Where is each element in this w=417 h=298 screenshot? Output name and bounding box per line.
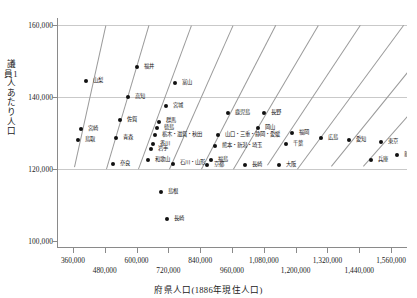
x-tick-mark [105,248,106,253]
data-point-label: 新潟 [404,152,407,158]
data-point [347,138,351,142]
data-point [379,140,383,144]
data-point [153,133,157,137]
x-axis-title: 府県人口(1886年現住人口) [0,283,417,295]
data-point-label: 宮崎 [88,126,98,132]
data-point [155,126,159,130]
data-point-label: 東京 [388,139,398,145]
y-tick-label: 100,000 [0,237,53,246]
x-tick-label: 480,000 [93,266,117,275]
data-point-label: 岡山 [265,125,275,131]
x-tick-mark [168,248,169,253]
data-point-label: 高知 [135,94,145,100]
data-point [159,190,163,194]
data-point-label: 熊本・新潟・埼玉 [222,143,262,148]
data-point [146,158,150,162]
data-point [173,81,177,85]
x-tick-label: 720,000 [156,266,180,275]
data-point [209,158,213,162]
data-point-label: 青森 [123,135,133,141]
x-tick-mark [327,248,328,253]
x-tick-mark [200,248,201,253]
data-point [395,153,399,157]
data-point [369,158,373,162]
data-point-label: 栃木・滋賀・秋田 [162,132,202,137]
x-tick-mark [73,248,74,253]
data-point-label: 兵庫 [378,157,388,163]
data-point-label: 和歌山 [155,157,170,163]
data-point-label: 佐賀 [127,117,137,123]
data-point [164,104,168,108]
data-point-label: 徳島 [164,125,174,131]
x-tick-label: 1,440,000 [344,266,374,275]
data-point [216,133,220,137]
data-point [76,138,80,142]
data-point [290,131,294,135]
data-point-label: 島根 [168,189,178,195]
x-tick-label: 360,000 [61,256,85,265]
data-point-label: 岩手 [158,146,168,152]
y-tick-label: 160,000 [0,21,53,30]
data-point-label: 福井 [144,64,154,70]
data-point [256,126,260,130]
data-point [165,217,169,221]
data-point-label: 広島 [328,135,338,141]
data-point-label: 愛知 [356,137,366,143]
data-point-label: 大阪 [286,162,296,168]
y-tick-label: 140,000 [0,93,53,102]
data-point [84,79,88,83]
x-tick-mark [232,248,233,253]
data-point-label: 山口・三重・静岡・愛媛 [225,132,280,137]
data-point [111,162,115,166]
data-point [157,120,161,124]
data-point [126,95,130,99]
data-point [205,163,209,167]
data-point-label: 長崎 [252,162,262,168]
data-point [135,65,139,69]
data-point-label: 群馬 [166,118,176,124]
data-point [226,111,230,115]
data-point [213,144,217,148]
data-point-label: 石川・山形 [180,160,205,165]
plot-area: 山梨宮崎鳥取福井高知佐賀青森奈良富山宮城群馬徳島栃木・滋賀・秋田香川岩手和歌山石… [57,18,407,248]
data-point-label: 長崎 [174,216,184,222]
data-point-label: 山梨 [93,78,103,84]
data-point [151,142,155,146]
data-point [262,111,266,115]
x-tick-mark [391,248,392,253]
data-point-label: 千葉 [293,141,303,147]
x-tick-label: 1,320,000 [313,256,343,265]
data-point [118,118,122,122]
data-point-label: 鹿児島 [235,110,250,116]
data-point-label: 福岡 [299,130,309,136]
seat-equivalence-line [74,25,106,167]
data-point [171,162,175,166]
x-tick-label: 600,000 [125,256,149,265]
x-tick-label: 1,200,000 [281,266,311,275]
x-tick-label: 1,560,000 [376,256,406,265]
data-point [149,147,153,151]
scatter-chart: 議員1人あたり人口 100,000120,000140,000160,000 山… [0,0,417,298]
x-tick-mark [359,248,360,253]
data-point [277,163,281,167]
x-tick-mark [296,248,297,253]
data-point [79,127,83,131]
data-point [284,142,288,146]
data-point-label: 鳥取 [85,137,95,143]
x-tick-mark [137,248,138,253]
data-point-label: 奈良 [120,161,130,167]
data-point [114,136,118,140]
data-point-label: 長野 [271,110,281,116]
y-tick-label: 120,000 [0,165,53,174]
data-point-label: 京都 [214,162,224,168]
x-tick-mark [264,248,265,253]
x-tick-label: 960,000 [220,266,244,275]
x-tick-label: 1,080,000 [249,256,279,265]
data-point [319,136,323,140]
data-point-label: 富山 [182,80,192,86]
x-tick-label: 840,000 [188,256,212,265]
data-point-label: 宮城 [173,103,183,109]
data-point [243,163,247,167]
gridline [58,97,407,98]
